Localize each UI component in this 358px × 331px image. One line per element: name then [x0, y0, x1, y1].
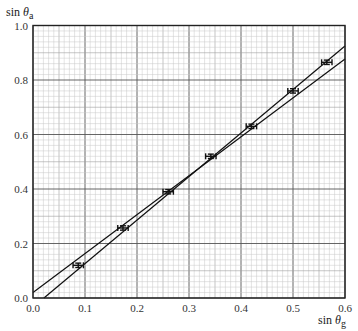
y-tick-label: 0.4 — [14, 183, 28, 195]
x-tick-label: 0.5 — [286, 302, 300, 314]
chart: 0.00.10.20.30.40.50.6 0.00.20.40.60.81.0… — [0, 0, 358, 331]
x-tick-labels: 0.00.10.20.30.40.50.6 — [26, 302, 352, 314]
x-tick-label: 0.2 — [130, 302, 144, 314]
x-axis-label: sin θg — [318, 313, 346, 329]
x-tick-label: 0.1 — [78, 302, 92, 314]
y-axis-label: sin θa — [6, 5, 34, 21]
data-point — [246, 123, 256, 129]
x-tick-label: 0.0 — [26, 302, 40, 314]
x-tick-label: 0.3 — [182, 302, 196, 314]
y-tick-label: 0.2 — [14, 238, 28, 250]
y-tick-labels: 0.00.20.40.60.81.0 — [14, 20, 28, 305]
y-tick-label: 0.8 — [14, 74, 28, 86]
x-tick-label: 0.4 — [234, 302, 248, 314]
y-tick-label: 0.6 — [14, 129, 28, 141]
data-point — [206, 153, 216, 159]
y-tick-label: 0.0 — [14, 292, 28, 304]
y-tick-label: 1.0 — [14, 20, 28, 32]
